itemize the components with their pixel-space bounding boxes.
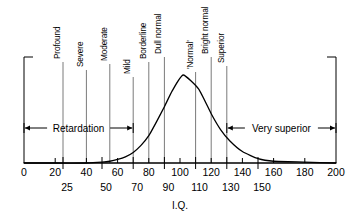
x-tick-label-secondary: 25 <box>61 181 73 193</box>
x-tick-labels-secondary: 25507090110130150 <box>61 181 271 193</box>
x-tick-label: 180 <box>296 166 314 178</box>
x-tick-label-secondary: 150 <box>253 181 271 193</box>
x-tick-label-secondary: 110 <box>191 181 208 193</box>
x-tick-label-secondary: 90 <box>163 181 175 193</box>
x-tick-label-secondary: 70 <box>131 181 143 193</box>
distribution-curve <box>24 75 336 163</box>
category-label: Superior <box>217 32 226 63</box>
category-label: Borderline <box>139 22 148 59</box>
x-tick-label: 80 <box>143 166 155 178</box>
arrow-head-left <box>25 125 30 130</box>
x-tick-label: 0 <box>21 166 27 178</box>
annotation-label: Retardation <box>53 123 105 134</box>
category-label: Moderate <box>100 27 109 61</box>
x-tick-labels-primary: 020406080100120140160180200 <box>21 166 345 178</box>
chart-canvas: ProfoundSevereModerateMildBorderlineDull… <box>0 0 360 220</box>
category-label: Bright normal <box>201 6 210 54</box>
x-tick-label: 40 <box>81 166 93 178</box>
x-tick-label: 20 <box>49 166 61 178</box>
iq-distribution-chart: ProfoundSevereModerateMildBorderlineDull… <box>0 0 360 220</box>
category-label: Profound <box>53 26 62 59</box>
annotation-label: Very superior <box>252 123 312 134</box>
x-axis-title: I.Q. <box>172 200 188 211</box>
x-tick-label: 160 <box>265 166 283 178</box>
x-tick-label: 200 <box>327 166 345 178</box>
range-annotations: RetardationVery superior <box>24 123 336 134</box>
arrow-head-right <box>330 125 335 130</box>
x-tick-label: 60 <box>112 166 124 178</box>
chart-frame <box>24 57 336 163</box>
category-divider-lines <box>63 57 227 163</box>
arrow-head-left <box>228 125 233 130</box>
category-label: Severe <box>76 41 85 67</box>
category-label: 'Normal' <box>186 40 195 69</box>
x-tick-label-secondary: 50 <box>100 181 112 193</box>
x-tick-label: 100 <box>171 166 189 178</box>
category-label: Dull normal <box>154 13 163 54</box>
x-tick-label: 140 <box>234 166 252 178</box>
x-tick-label: 120 <box>202 166 220 178</box>
x-tick-label-secondary: 130 <box>222 181 240 193</box>
category-label: Mild <box>123 59 132 74</box>
category-labels: ProfoundSevereModerateMildBorderlineDull… <box>53 6 226 74</box>
arrow-head-right <box>127 125 132 130</box>
